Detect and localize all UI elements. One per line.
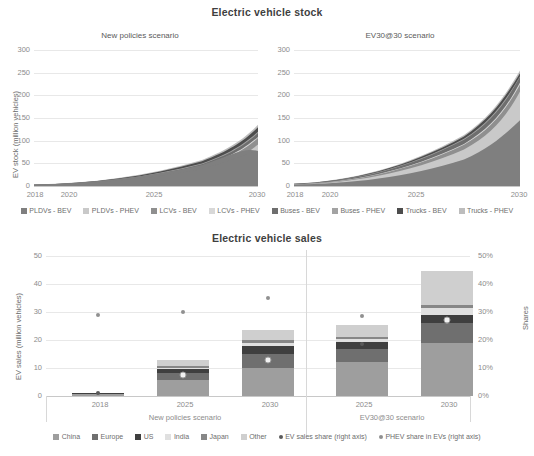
sales-xtick: 2030 [434, 400, 464, 409]
legend-swatch-icon [83, 208, 89, 214]
sales-ytick: 50 [18, 251, 42, 260]
stock-xtick: 2018 [282, 190, 308, 199]
legend-swatch-icon [21, 208, 27, 214]
group-separator-right [470, 396, 471, 422]
legend-item-buses-phev[interactable]: Buses - PHEV [332, 207, 385, 214]
marker-phev-share [181, 310, 185, 314]
legend-label: Buses - PHEV [340, 207, 385, 214]
stock-ytick: 200 [4, 90, 30, 99]
gridline [46, 256, 470, 257]
sales-legend: China Europe US India Japan Other EV sal… [0, 433, 534, 440]
legend-swatch-icon [201, 434, 207, 440]
marker-ev-sales-share [96, 391, 100, 395]
marker-ev-sales-share [360, 342, 364, 346]
legend-swatch-icon [241, 434, 247, 440]
sales-ytick-right: 40% [478, 279, 506, 288]
stock-xtick: 2025 [141, 190, 167, 199]
marker-ev-sales-share [265, 356, 272, 363]
stock-ytick: 300 [4, 45, 30, 54]
stock-ytick: 300 [264, 45, 290, 54]
bar-segment-china [242, 368, 294, 396]
x-axis-line [34, 186, 258, 187]
legend-item-japan[interactable]: Japan [201, 433, 229, 440]
marker-phev-share [96, 313, 100, 317]
stock-ytick: 250 [264, 68, 290, 77]
legend-swatch-icon [135, 434, 141, 440]
stock-xtick: 2020 [317, 190, 343, 199]
sales-ytick: 30 [18, 307, 42, 316]
stock-ytick: 0 [264, 181, 290, 190]
legend-item-ev-sales-share[interactable]: EV sales share (right axis) [279, 433, 367, 440]
legend-item-other[interactable]: Other [241, 433, 267, 440]
stock-xtick: 2030 [244, 190, 270, 199]
sales-bar-2030-ev30[interactable] [421, 271, 473, 396]
legend-item-lcvs-phev[interactable]: LCVs - PHEV [209, 207, 260, 214]
stock-ytick: 100 [4, 136, 30, 145]
sales-ytick: 0 [18, 391, 42, 400]
sales-chart-title: Electric vehicle sales [0, 232, 534, 244]
group-separator-left [46, 396, 47, 422]
legend-item-china[interactable]: China [53, 433, 80, 440]
sales-bar-2025-ev30[interactable] [336, 325, 388, 396]
legend-swatch-icon [459, 208, 465, 214]
group-separator-mid [306, 396, 307, 422]
marker-phev-share [266, 296, 270, 300]
legend-label: PLDVs - PHEV [92, 207, 139, 214]
stock-xtick: 2018 [22, 190, 48, 199]
legend-item-pldvs-phev[interactable]: PLDVs - PHEV [83, 207, 139, 214]
sales-ytick-right: 30% [478, 307, 506, 316]
legend-label: Japan [210, 433, 229, 440]
legend-swatch-icon [209, 208, 215, 214]
legend-item-india[interactable]: India [165, 433, 189, 440]
bar-segment-other [421, 271, 473, 305]
marker-ev-sales-share [444, 317, 451, 324]
legend-item-phev-share[interactable]: PHEV share in EVs (right axis) [379, 433, 481, 440]
sales-xtick: 2030 [255, 400, 285, 409]
legend-swatch-icon [53, 434, 59, 440]
sales-ytick: 40 [18, 279, 42, 288]
legend-swatch-icon [397, 208, 403, 214]
stock-ytick: 100 [264, 136, 290, 145]
sales-ytick: 10 [18, 363, 42, 372]
sales-ytick: 20 [18, 335, 42, 344]
sales-xtick: 2025 [170, 400, 200, 409]
legend-label: Trucks - BEV [406, 207, 447, 214]
legend-swatch-icon [332, 208, 338, 214]
stock-ytick: 200 [264, 90, 290, 99]
sales-y-axis-label-right: Shares [521, 306, 530, 330]
legend-item-us[interactable]: US [135, 433, 153, 440]
stock-ytick: 50 [264, 158, 290, 167]
legend-swatch-icon [272, 208, 278, 214]
legend-item-buses-bev[interactable]: Buses - BEV [272, 207, 320, 214]
stock-ytick: 150 [264, 113, 290, 122]
stock-ytick: 250 [4, 68, 30, 77]
legend-item-trucks-phev[interactable]: Trucks - PHEV [459, 207, 514, 214]
legend-label: Buses - BEV [280, 207, 320, 214]
stock-panel-left [34, 50, 258, 186]
sales-ytick-right: 50% [478, 251, 506, 260]
legend-swatch-icon [92, 434, 98, 440]
bar-segment-india [421, 308, 473, 315]
sales-ytick-right: 20% [478, 335, 506, 344]
marker-ev-sales-share [180, 372, 187, 379]
stock-ytick: 0 [4, 181, 30, 190]
stock-area-left [34, 50, 258, 186]
legend-label: China [62, 433, 80, 440]
gridline [46, 312, 470, 313]
sales-bar-2030-np[interactable] [242, 330, 294, 396]
sales-group-label-ev30: EV30@30 scenario [322, 413, 462, 422]
bar-segment-europe [421, 323, 473, 343]
legend-label: LCVs - BEV [159, 207, 196, 214]
legend-item-europe[interactable]: Europe [92, 433, 123, 440]
bar-segment-us [242, 346, 294, 354]
stock-legend: PLDVs - BEV PLDVs - PHEV LCVs - BEV LCVs… [0, 207, 534, 214]
legend-item-lcvs-bev[interactable]: LCVs - BEV [151, 207, 197, 214]
legend-item-trucks-bev[interactable]: Trucks - BEV [397, 207, 446, 214]
legend-label: PHEV share in EVs (right axis) [385, 433, 480, 440]
legend-swatch-icon [165, 434, 171, 440]
legend-label: India [174, 433, 189, 440]
legend-item-pldvs-bev[interactable]: PLDVs - BEV [21, 207, 72, 214]
legend-label: Europe [101, 433, 124, 440]
stock-panel-right [294, 50, 520, 186]
bar-segment-other [336, 325, 388, 337]
